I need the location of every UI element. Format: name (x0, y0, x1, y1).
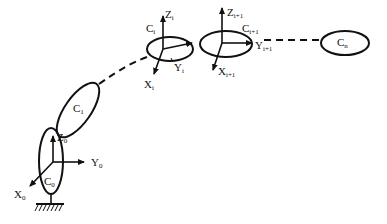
xi-label: Xi (144, 78, 154, 92)
xi-axis (154, 49, 163, 74)
yi1-label: Yi+1 (255, 39, 273, 53)
link-c1-label: C1 (73, 102, 84, 116)
yi-label: Yi (174, 61, 184, 75)
link-ci (147, 37, 193, 61)
kinematic-chain-diagram: C0 Z0 Y0 X0 C1 Ci Zi Yi Xi Ci+1 Zi+1 Yi+… (0, 0, 387, 224)
dashed-link-c1-ci (99, 56, 150, 84)
zi-label: Zi (165, 8, 174, 22)
zi1-label: Zi+1 (227, 6, 244, 20)
link-c0-label: C0 (44, 175, 55, 189)
link-ci-label: Ci (146, 22, 155, 36)
frame-i1: Zi+1 Yi+1 Xi+1 (213, 6, 273, 79)
frame-0: Z0 Y0 X0 (14, 131, 103, 202)
xi1-label: Xi+1 (218, 65, 236, 79)
yi-axis (163, 43, 192, 49)
ground-base (35, 194, 64, 211)
y0-label: Y0 (91, 156, 103, 170)
x0-label: X0 (14, 188, 26, 202)
link-ci1-label: Ci+1 (242, 22, 259, 36)
link-ci1 (200, 31, 252, 57)
link-cn-label: Cn (337, 36, 348, 50)
frame-i: Zi Yi Xi (144, 8, 192, 92)
